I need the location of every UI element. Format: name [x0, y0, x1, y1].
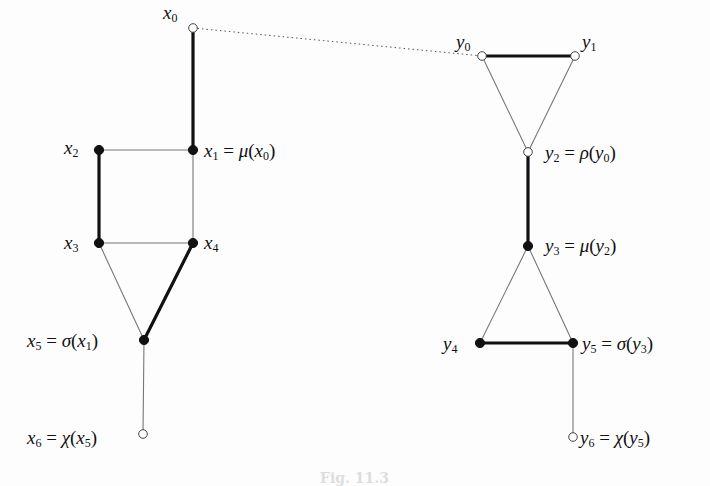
label-x1: x1 = μ(x0)	[204, 141, 275, 162]
node-x5-filled	[139, 335, 148, 344]
label-x4: x4	[204, 233, 218, 254]
node-y2-hollow	[524, 148, 533, 157]
edge-x5-x6	[143, 340, 144, 434]
label-x6: x6 = χ(x5)	[27, 428, 97, 449]
node-y5-filled	[568, 338, 577, 347]
label-y6: y6 = χ(y5)	[580, 428, 650, 449]
label-y2: y2 = ρ(y0)	[545, 143, 616, 164]
node-y0-hollow	[478, 52, 487, 61]
edge-y3-y5	[528, 246, 573, 343]
node-y4-filled	[475, 338, 484, 347]
node-y6-hollow	[569, 433, 578, 442]
node-x0-hollow	[189, 24, 198, 33]
label-y1: y1	[582, 32, 596, 53]
edge-y3-y4	[480, 246, 528, 343]
label-x0: x0	[163, 3, 177, 24]
node-x1-filled	[188, 145, 197, 154]
label-x5: x5 = σ(x1)	[27, 331, 98, 352]
label-x2: x2	[64, 138, 78, 159]
label-y5: y5 = σ(y3)	[582, 334, 653, 355]
node-x6-hollow	[139, 430, 148, 439]
label-y0: y0	[456, 32, 470, 53]
label-y4: y4	[443, 334, 457, 355]
edge-y0-y2	[482, 56, 528, 152]
dotted-link	[193, 28, 482, 56]
node-x4-filled	[188, 238, 197, 247]
edge-x3-x5	[99, 243, 144, 340]
edge-y1-y2	[528, 56, 575, 152]
label-y3: y3 = μ(y2)	[545, 236, 616, 257]
figure-caption: Fig. 11.3	[320, 470, 389, 486]
node-x3-filled	[94, 238, 103, 247]
node-y3-filled	[523, 241, 532, 250]
node-y1-hollow	[571, 52, 580, 61]
edge-x4-x5	[144, 243, 193, 340]
label-x3: x3	[64, 233, 78, 254]
node-x2-filled	[94, 145, 103, 154]
